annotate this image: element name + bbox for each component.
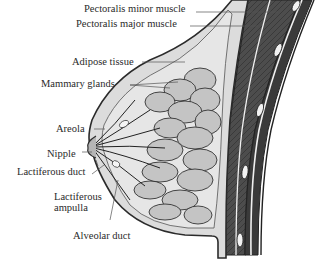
label-lactiferous-ampulla-line1: Lactiferous xyxy=(54,191,102,202)
anatomy-illustration xyxy=(0,0,325,262)
label-alveolar-duct: Alveolar duct xyxy=(73,230,130,241)
label-lactiferous-ampulla-line2: ampulla xyxy=(54,202,88,213)
breast-anatomy-diagram: Pectoralis minor muscle Pectoralis major… xyxy=(0,0,325,262)
label-areola: Areola xyxy=(56,123,85,134)
label-nipple: Nipple xyxy=(47,148,76,159)
label-mammary-glands: Mammary glands xyxy=(41,78,115,89)
label-pectoralis-minor: Pectoralis minor muscle xyxy=(84,3,185,14)
label-adipose-tissue: Adipose tissue xyxy=(72,56,134,67)
label-lactiferous-duct: Lactiferous duct xyxy=(17,166,86,177)
label-pectoralis-major: Pectoralis major muscle xyxy=(76,18,177,29)
